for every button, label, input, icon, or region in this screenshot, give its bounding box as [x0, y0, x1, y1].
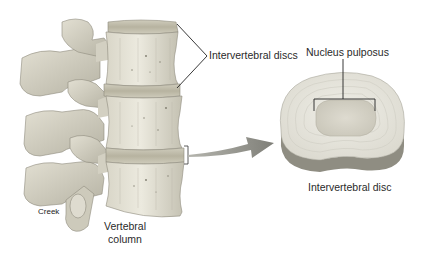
label-intervertebral-discs: Intervertebral discs	[209, 50, 298, 61]
label-vertebral-column: Vertebral column	[104, 220, 146, 246]
disc-middle	[104, 84, 180, 98]
intervertebral-disc-illustration	[280, 72, 404, 172]
disc-bracket	[184, 146, 188, 164]
disc-lower	[106, 148, 184, 164]
label-nucleus-pulposus: Nucleus pulposus	[306, 47, 389, 58]
disc-top	[108, 20, 178, 34]
label-intervertebral-disc: Intervertebral disc	[308, 182, 391, 193]
nucleus-pulposus-region	[316, 100, 376, 136]
label-vertebral-column-line1: Vertebral	[104, 220, 146, 233]
diagram-canvas: Intervertebral discs Nucleus pulposus In…	[0, 0, 428, 263]
vertebral-column-illustration	[0, 0, 428, 263]
label-creek: Creek	[38, 208, 59, 216]
vertebral-bodies	[104, 20, 184, 217]
label-vertebral-column-line2: column	[104, 233, 146, 246]
spinous-processes	[20, 19, 110, 231]
discs-leader-lines	[177, 24, 207, 88]
arrow-icon	[188, 137, 274, 158]
